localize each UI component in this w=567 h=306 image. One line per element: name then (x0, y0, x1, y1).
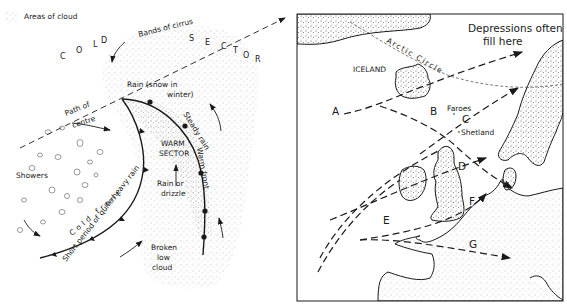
track-label-c: C (462, 113, 469, 125)
svg-text:O: O (243, 51, 249, 60)
broken-low-cloud-label: Broken (151, 243, 177, 252)
legend-label: Areas of cloud (24, 12, 78, 21)
track-label-g: G (469, 238, 477, 250)
track-label-d: D (458, 160, 466, 172)
svg-text:S: S (189, 34, 194, 43)
rain-or-drizzle-label-2: drizzle (161, 189, 186, 198)
warm-sector-label: WARM (161, 139, 185, 148)
warm-sector-label-2: SECTOR (159, 149, 189, 158)
track-label-f: F (469, 195, 475, 207)
legend: Areas of cloud (5, 10, 78, 24)
track-label-a: A (332, 105, 340, 117)
svg-text:R: R (255, 55, 261, 64)
svg-text:C: C (221, 42, 227, 51)
flow-arrow-icon (24, 220, 40, 236)
showers-label: Showers (16, 171, 48, 180)
faroes-label: Faroes (447, 104, 471, 113)
svg-text:L: L (93, 40, 98, 49)
depressions-label-2: fill here (483, 35, 522, 47)
flow-arrow-icon (120, 241, 142, 257)
track-label-e: E (383, 214, 390, 226)
right-map: Arctic Circle ICELAND Faroes Shetland De… (297, 14, 563, 301)
broken-low-cloud-label-3: cloud (152, 263, 173, 272)
faroes-point-icon (453, 113, 455, 115)
left-frontal-diagram: C O L D S E C T O R Bands of cirrus Rain… (16, 17, 285, 289)
iceland-label: ICELAND (353, 65, 386, 74)
shetland-point-icon (458, 131, 460, 133)
broken-low-cloud-label-2: low (157, 253, 170, 262)
rain-snow-label: Rain (snow in (127, 80, 178, 89)
svg-text:O: O (76, 46, 82, 55)
svg-text:D: D (101, 36, 107, 45)
path-of-centre-label-2: centre (71, 114, 97, 130)
svg-text:C: C (60, 52, 66, 61)
stipple-swatch-icon (5, 10, 17, 24)
short-period-label: Short period of quite heavy rain (60, 163, 141, 263)
iceland-landmass (395, 64, 430, 98)
svg-text:T: T (232, 46, 238, 55)
track-label-b: B (430, 105, 437, 117)
rain-or-drizzle-label: Rain or (157, 179, 184, 188)
shetland-label: Shetland (461, 128, 495, 137)
depressions-label: Depressions often (468, 22, 563, 34)
rain-snow-label-2: winter) (167, 90, 194, 99)
svg-text:E: E (205, 38, 210, 47)
weather-diagram: Areas of cloud (0, 0, 567, 306)
